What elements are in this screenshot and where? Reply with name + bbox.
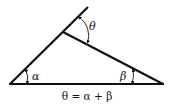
beta-label: β [119,70,126,83]
theta-arc [79,17,89,43]
beta-arc [132,69,133,84]
triangle-diagram: θ α β θ = α + β [0,0,175,108]
theta-label: θ [89,20,96,33]
right-side [63,32,163,84]
left-side-extended [10,7,88,84]
alpha-label: α [32,70,40,83]
alpha-arc [26,69,28,84]
formula: θ = α + β [62,90,112,102]
